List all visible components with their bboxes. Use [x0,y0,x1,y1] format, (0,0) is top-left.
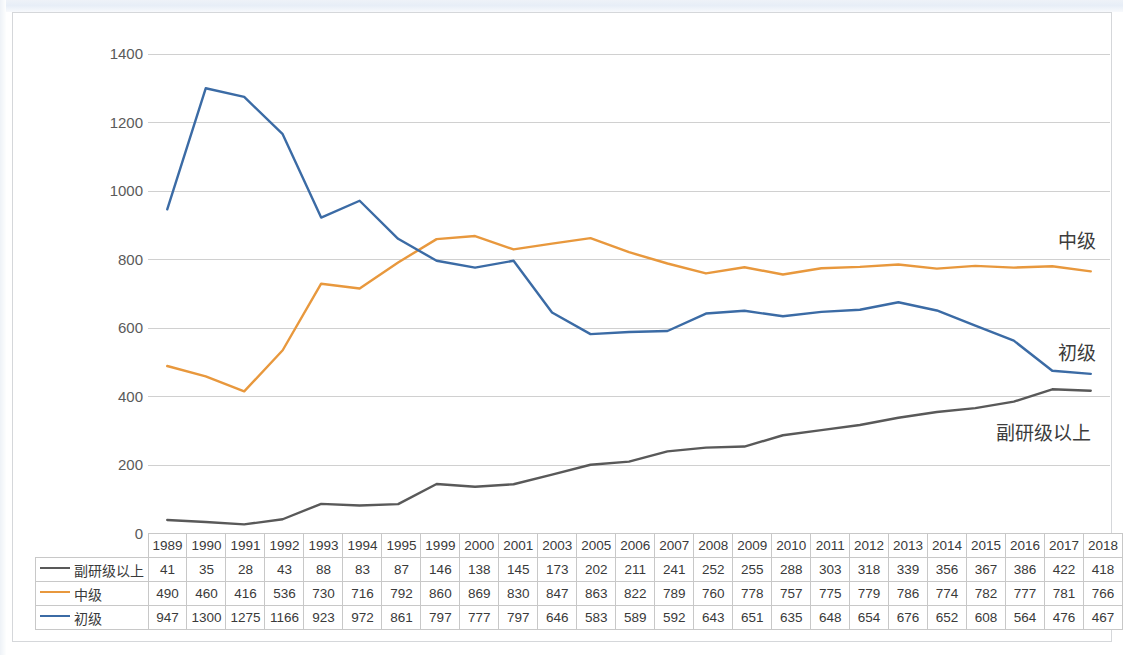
table-cell: 1300 [187,606,226,630]
legend-line-swatch-icon [40,615,70,617]
table-year-header-2007: 2007 [655,534,694,558]
table-cell: 786 [889,582,928,606]
y-axis-tick-labels: 0200400600800100012001400 [95,0,143,560]
table-cell: 652 [928,606,967,630]
table-cell: 416 [226,582,265,606]
y-axis-tick-1200: 1200 [110,115,143,130]
table-year-header-1991: 1991 [226,534,265,558]
legend-cell-副研级以上: 副研级以上 [36,558,149,582]
table-cell: 830 [499,582,538,606]
legend-line-swatch-icon [40,567,70,569]
table-cell: 822 [616,582,655,606]
table-year-header-2017: 2017 [1045,534,1084,558]
table-cell: 654 [850,606,889,630]
table-cell: 41 [148,558,187,582]
table-cell: 861 [382,606,421,630]
table-year-header-2016: 2016 [1006,534,1045,558]
table-year-header-2001: 2001 [499,534,538,558]
table-year-header-1995: 1995 [382,534,421,558]
table-cell: 367 [967,558,1006,582]
series-line-副研级以上 [167,389,1091,524]
table-row: 初级94713001275116692397286179777779764658… [36,606,1123,630]
table-cell: 173 [538,558,577,582]
table-cell: 490 [148,582,187,606]
table-cell: 252 [694,558,733,582]
table-year-header-2000: 2000 [460,534,499,558]
table-cell: 592 [655,606,694,630]
table-row: 中级49046041653673071679286086983084786382… [36,582,1123,606]
table-year-header-1999: 1999 [421,534,460,558]
table-cell: 778 [733,582,772,606]
table-cell: 138 [460,558,499,582]
table-cell: 1166 [265,606,304,630]
table-year-header-2012: 2012 [850,534,889,558]
legend-cell-初级: 初级 [36,606,149,630]
y-axis-tick-1400: 1400 [110,46,143,61]
table-cell: 536 [265,582,304,606]
plot-area [148,54,1110,534]
table-cell: 760 [694,582,733,606]
table-cell: 774 [928,582,967,606]
table-year-header-2010: 2010 [772,534,811,558]
table-cell: 386 [1006,558,1045,582]
table-year-header-2003: 2003 [538,534,577,558]
table-cell: 211 [616,558,655,582]
table-cell: 1275 [226,606,265,630]
legend-line-swatch-icon [40,591,70,593]
table-cell: 775 [811,582,850,606]
y-axis-tick-200: 200 [118,457,143,472]
legend-label: 副研级以上 [74,563,144,579]
table-cell: 947 [148,606,187,630]
table-cell: 781 [1045,582,1084,606]
table-cell: 797 [421,606,460,630]
table-year-header-2009: 2009 [733,534,772,558]
legend-label: 中级 [74,587,102,603]
table-cell: 35 [187,558,226,582]
table-cell: 779 [850,582,889,606]
table-cell: 730 [304,582,343,606]
table-cell: 88 [304,558,343,582]
table-cell: 792 [382,582,421,606]
table-cell: 564 [1006,606,1045,630]
table-cell: 651 [733,606,772,630]
table-year-header-2011: 2011 [811,534,850,558]
table-cell: 356 [928,558,967,582]
table-row: 副研级以上41352843888387146138145173202211241… [36,558,1123,582]
table-cell: 972 [343,606,382,630]
table-year-header-1993: 1993 [304,534,343,558]
table-cell: 476 [1045,606,1084,630]
chart-data-table: 1989199019911992199319941995199920002001… [35,533,1123,630]
series-callout-mid: 中级 [1058,226,1096,253]
table-cell: 789 [655,582,694,606]
table-cell: 766 [1084,582,1123,606]
table-year-header-2018: 2018 [1084,534,1123,558]
table-cell: 145 [499,558,538,582]
table-cell: 288 [772,558,811,582]
legend-cell-中级: 中级 [36,582,149,606]
table-year-header-1994: 1994 [343,534,382,558]
table-cell: 255 [733,558,772,582]
table-cell: 923 [304,606,343,630]
table-year-header-2005: 2005 [577,534,616,558]
table-cell: 583 [577,606,616,630]
table-year-header-2015: 2015 [967,534,1006,558]
table-year-header-1992: 1992 [265,534,304,558]
table-cell: 608 [967,606,1006,630]
table-cell: 241 [655,558,694,582]
table-cell: 589 [616,606,655,630]
series-line-初级 [167,88,1091,374]
y-axis-tick-400: 400 [118,389,143,404]
table-cell: 43 [265,558,304,582]
table-cell: 146 [421,558,460,582]
table-cell: 635 [772,606,811,630]
table-cell: 860 [421,582,460,606]
y-axis-tick-800: 800 [118,252,143,267]
y-axis-tick-600: 600 [118,320,143,335]
table-cell: 422 [1045,558,1084,582]
line-chart-svg [148,54,1110,534]
table-year-header-1990: 1990 [187,534,226,558]
table-cell: 777 [460,606,499,630]
table-cell: 202 [577,558,616,582]
table-cell: 418 [1084,558,1123,582]
table-cell: 303 [811,558,850,582]
